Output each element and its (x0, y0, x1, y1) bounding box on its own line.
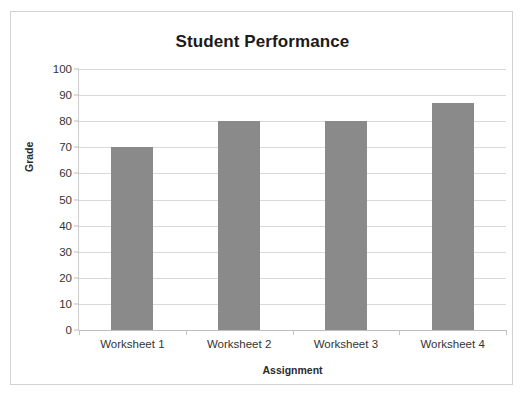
category-tick-mark (79, 330, 80, 335)
bar[interactable] (325, 121, 367, 330)
chart-figure: Student Performance Grade 10090807060504… (10, 11, 513, 385)
bar-slot (293, 69, 400, 330)
category-tick-mark (293, 330, 294, 335)
x-tick-label: Worksheet 4 (399, 338, 506, 350)
y-tick-label: 50 (59, 194, 72, 206)
y-axis-title: Grade (23, 142, 35, 172)
y-tick-label: 70 (59, 141, 72, 153)
bar-slot (79, 69, 186, 330)
y-tick-label: 80 (59, 115, 72, 127)
bar[interactable] (218, 121, 260, 330)
bar[interactable] (432, 103, 474, 330)
y-tick-label: 90 (59, 89, 72, 101)
bar-slot (399, 69, 506, 330)
plot-area: 1009080706050403020100 (79, 69, 506, 330)
x-axis-title: Assignment (79, 364, 506, 376)
x-tick-label: Worksheet 3 (293, 338, 400, 350)
x-tick-label: Worksheet 1 (79, 338, 186, 350)
y-tick-label: 40 (59, 220, 72, 232)
bar-slot (186, 69, 293, 330)
y-tick-label: 30 (59, 246, 72, 258)
category-tick-mark (506, 330, 507, 335)
bar-series (79, 69, 506, 330)
x-tick-label: Worksheet 2 (186, 338, 293, 350)
y-tick-label: 20 (59, 272, 72, 284)
y-tick-label: 100 (53, 63, 72, 75)
category-tick-mark (399, 330, 400, 335)
y-tick-label: 10 (59, 298, 72, 310)
x-axis-tick-labels: Worksheet 1Worksheet 2Worksheet 3Workshe… (79, 338, 506, 350)
category-tick-mark (186, 330, 187, 335)
y-tick-label: 0 (66, 324, 72, 336)
bar[interactable] (111, 147, 153, 330)
y-tick-label: 60 (59, 167, 72, 179)
chart-title: Student Performance (11, 32, 514, 52)
